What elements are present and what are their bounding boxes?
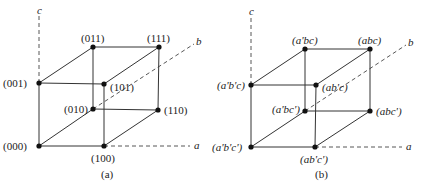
- axis-b-line: [305, 45, 406, 111]
- vertex-000: [36, 143, 41, 148]
- axis-b-line: [93, 44, 194, 109]
- vertex-label-a'bc: (a'bc): [292, 34, 318, 47]
- axis-a-label: a: [406, 140, 412, 152]
- cube-figure-b: c a b (a'b'c') (ab'c') (a'b': [212, 5, 414, 181]
- vertex-label-abc': (abc'): [376, 105, 402, 118]
- vertex-label-abc: (abc): [358, 34, 382, 47]
- vertex-label-ab'c: (ab'c): [322, 81, 348, 94]
- vertex-110: [155, 107, 160, 112]
- vertex-label-101: (101): [110, 81, 134, 94]
- vertex-label-100: (100): [91, 152, 115, 165]
- axis-c-label: c: [249, 5, 254, 17]
- vertex-a'b'c': [248, 144, 253, 149]
- vertex-label-a'b'c: (a'b'c): [217, 79, 245, 92]
- axis-c-label: c: [37, 4, 42, 16]
- vertex-label-000: (000): [3, 140, 27, 153]
- vertex-101: [101, 81, 106, 86]
- vertex-label-110: (110): [164, 104, 188, 117]
- vertex-label-a'bc': (a'bc'): [272, 103, 300, 116]
- vertex-a'b'c: [248, 82, 253, 87]
- axis-b-label: b: [408, 36, 414, 48]
- vertex-label-001: (001): [3, 77, 27, 90]
- vertex-011: [90, 44, 95, 49]
- boolean-cube-diagrams: c a b (000) (100) (001): [0, 0, 422, 190]
- axis-a-label: a: [194, 139, 200, 151]
- cube-edges-b: [251, 49, 370, 147]
- cube-figure-a: c a b (000) (100) (001): [3, 4, 202, 181]
- vertex-111: [156, 44, 161, 49]
- cube-edges-a: [39, 47, 159, 146]
- vertex-abc: [367, 46, 372, 51]
- vertex-ab'c: [313, 82, 318, 87]
- vertex-label-010: (010): [64, 103, 88, 116]
- vertex-a'bc: [302, 46, 307, 51]
- vertex-001: [36, 80, 41, 85]
- vertex-100: [101, 143, 106, 148]
- axis-b-label: b: [196, 35, 202, 47]
- vertex-label-011: (011): [81, 32, 105, 45]
- vertex-a'bc': [302, 108, 307, 113]
- vertex-010: [90, 106, 95, 111]
- vertex-ab'c': [312, 144, 317, 149]
- caption-b: (b): [315, 168, 328, 181]
- vertex-label-ab'c': (ab'c'): [300, 153, 328, 166]
- vertex-label-a'b'c': (a'b'c'): [212, 141, 243, 154]
- vertex-label-111: (111): [147, 32, 170, 45]
- vertex-abc': [367, 108, 372, 113]
- caption-a: (a): [101, 168, 114, 181]
